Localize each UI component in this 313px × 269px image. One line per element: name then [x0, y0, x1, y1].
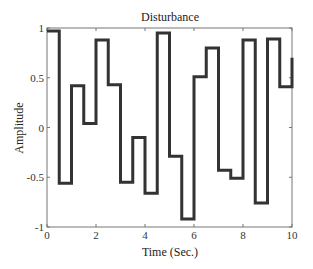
y-tick-label: 0.5 [30, 72, 44, 84]
x-tick-label: 4 [142, 229, 148, 241]
x-tick-label: 2 [93, 229, 99, 241]
x-tick-label: 8 [240, 229, 246, 241]
y-axis-label: Amplitude [12, 102, 26, 153]
disturbance-chart: 0246810 -1-0.500.51 Disturbance Time (Se… [0, 0, 313, 269]
x-tick-label: 6 [191, 229, 197, 241]
y-tick-label: -0.5 [27, 171, 45, 183]
y-tick-label: 0 [39, 122, 45, 134]
y-tick-label: -1 [35, 221, 44, 233]
chart-title: Disturbance [141, 10, 199, 24]
x-axis-label: Time (Sec.) [142, 245, 198, 259]
y-tick-label: 1 [39, 22, 45, 34]
x-tick-label: 10 [287, 229, 299, 241]
x-tick-label: 0 [44, 229, 50, 241]
